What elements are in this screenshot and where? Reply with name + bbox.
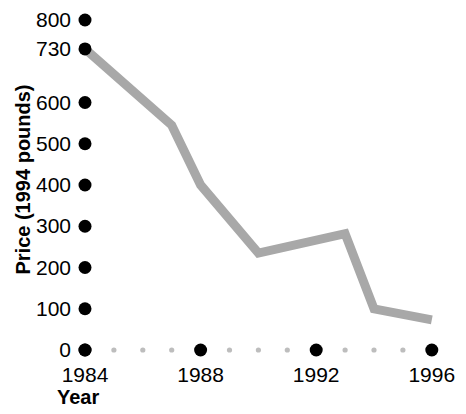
y-tick-label: 800 (0, 9, 71, 30)
x-tick-label: 1984 (50, 364, 120, 385)
x-major-tick-marker (310, 344, 323, 357)
y-tick-marker (79, 261, 92, 274)
line-chart: 8007306005004003002001000 19841988199219… (0, 0, 466, 414)
y-tick-marker (79, 179, 92, 192)
y-tick-label: 730 (0, 38, 71, 59)
x-minor-tick-marker (111, 347, 116, 352)
x-minor-tick-marker (343, 347, 348, 352)
x-axis-minor-tick-markers (111, 347, 405, 352)
x-tick-label: 1992 (281, 364, 351, 385)
y-tick-label: 100 (0, 298, 71, 319)
price-line-series (85, 49, 432, 320)
y-tick-marker (79, 302, 92, 315)
x-major-tick-marker (79, 344, 92, 357)
y-tick-marker (79, 137, 92, 150)
y-tick-marker (79, 96, 92, 109)
y-tick-marker (79, 220, 92, 233)
x-minor-tick-marker (256, 347, 261, 352)
y-axis-tick-markers (79, 14, 92, 357)
x-major-tick-marker (194, 344, 207, 357)
x-minor-tick-marker (169, 347, 174, 352)
x-axis-title: Year (57, 386, 99, 409)
x-major-tick-marker (425, 344, 438, 357)
x-tick-label: 1996 (397, 364, 466, 385)
x-minor-tick-marker (400, 347, 405, 352)
y-tick-label: 0 (0, 339, 71, 360)
x-minor-tick-marker (227, 347, 232, 352)
y-tick-marker (79, 42, 92, 55)
x-minor-tick-marker (140, 347, 145, 352)
y-axis-title: Price (1994 pounds) (12, 65, 35, 295)
x-minor-tick-marker (285, 347, 290, 352)
x-minor-tick-marker (371, 347, 376, 352)
y-tick-marker (79, 14, 92, 27)
x-tick-label: 1988 (166, 364, 236, 385)
